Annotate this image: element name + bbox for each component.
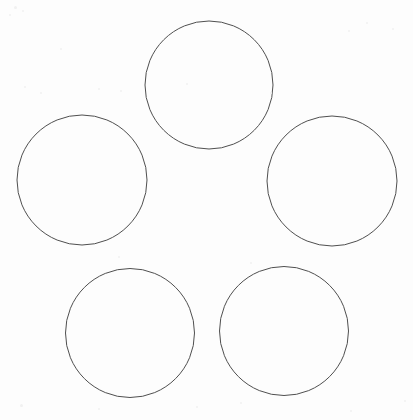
circle-right <box>267 116 397 246</box>
circle-top <box>145 21 273 149</box>
circle-group <box>17 21 397 398</box>
worksheet-canvas <box>0 0 413 420</box>
circle-bottom-left <box>66 269 195 398</box>
circle-bottom-right <box>220 267 349 396</box>
circle-left <box>17 115 147 245</box>
five-circles-figure <box>0 0 413 420</box>
